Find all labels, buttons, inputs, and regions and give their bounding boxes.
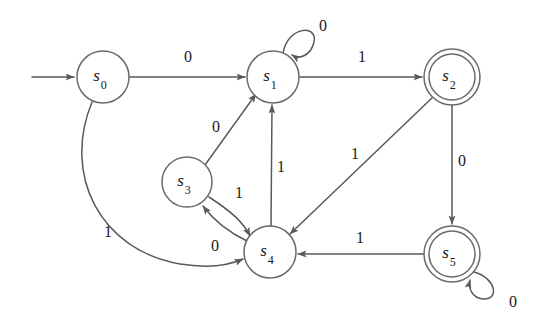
edge-label-s3-s1: 0 [212,118,220,135]
edge-s3-to-s4 [209,197,250,236]
edge-s4-to-s1 [271,105,272,226]
edge-s1-self-loop [283,30,314,57]
state-label-subscript-s5: 5 [450,255,456,269]
state-node-s1[interactable]: s1 [247,51,299,103]
edge-label-s2-s5: 0 [458,152,466,169]
edge-label-s5-s4: 1 [356,229,364,246]
edge-s4-to-s3 [203,206,247,241]
edge-s5-self-loop [470,272,494,299]
edge-label-s4-s3: 0 [211,237,219,254]
edge-label-s0-s4: 1 [104,223,112,240]
state-machine-diagram: 001010101011 s0s1s2s3s4s5 [0,0,542,334]
state-label-subscript-s1: 1 [271,78,277,92]
edge-label-s5-s5: 0 [509,293,517,310]
diagram-svg: 001010101011 s0s1s2s3s4s5 [0,0,542,334]
state-label-subscript-s2: 2 [450,78,456,92]
edge-label-s4-s1: 1 [277,158,285,175]
state-node-s4[interactable]: s4 [244,226,296,278]
state-node-s3[interactable]: s3 [162,157,212,207]
edge-s2-to-s4 [290,97,433,234]
state-node-s2[interactable]: s2 [424,49,480,105]
state-label-subscript-s4: 4 [268,253,274,267]
edge-label-s3-s4: 1 [235,184,243,201]
state-label-subscript-s3: 3 [185,183,191,197]
edge-label-s1-s1: 0 [319,17,327,34]
edge-label-s1-s2: 1 [358,48,366,65]
state-node-s0[interactable]: s0 [77,51,129,103]
state-node-s5[interactable]: s5 [424,226,480,282]
edge-label-s2-s4: 1 [351,145,359,162]
edge-label-s0-s1: 0 [184,48,192,65]
state-label-subscript-s0: 0 [101,78,107,92]
